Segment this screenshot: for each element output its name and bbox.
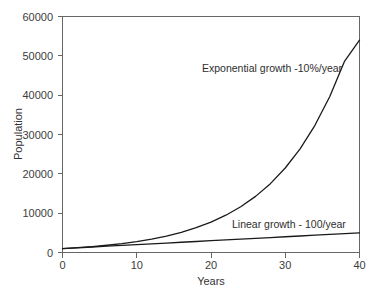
- y-axis-ticks: [58, 17, 63, 253]
- y-tick-label-0: 0: [47, 247, 53, 259]
- x-tick-label-30: 30: [279, 259, 291, 271]
- y-tick-label-30000: 30000: [22, 129, 53, 141]
- chart-svg: 60000 50000 40000 30000 20000 10000 0 0 …: [0, 0, 379, 292]
- x-axis-tick-labels: 0 10 20 30 40: [59, 259, 365, 271]
- y-tick-label-40000: 40000: [22, 89, 53, 101]
- x-tick-label-40: 40: [353, 259, 365, 271]
- linear-growth-line: [63, 233, 360, 249]
- y-tick-label-50000: 50000: [22, 50, 53, 62]
- x-axis-ticks: [63, 253, 360, 258]
- y-tick-label-60000: 60000: [22, 11, 53, 23]
- annotation-linear: Linear growth - 100/year: [232, 218, 346, 230]
- population-growth-chart: 60000 50000 40000 30000 20000 10000 0 0 …: [0, 0, 379, 292]
- annotation-exponential: Exponential growth -10%/year: [202, 62, 343, 74]
- x-tick-label-10: 10: [131, 259, 143, 271]
- y-axis-tick-labels: 60000 50000 40000 30000 20000 10000 0: [22, 11, 53, 259]
- x-axis-title: Years: [197, 275, 225, 287]
- x-tick-label-0: 0: [59, 259, 65, 271]
- y-axis-title: Population: [12, 108, 24, 160]
- x-tick-label-20: 20: [205, 259, 217, 271]
- y-tick-label-10000: 10000: [22, 207, 53, 219]
- y-tick-label-20000: 20000: [22, 168, 53, 180]
